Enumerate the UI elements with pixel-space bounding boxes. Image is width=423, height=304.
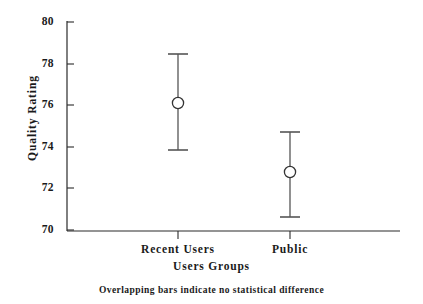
x-tick-label-public: Public	[272, 243, 308, 255]
x-tick-label-recent-users: Recent Users	[141, 243, 215, 255]
marker-public	[284, 166, 295, 177]
marker-recent-users	[172, 97, 183, 108]
data-point-recent-users	[168, 54, 188, 150]
plot-area	[0, 0, 423, 304]
chart-annotation: Overlapping bars indicate no statistical…	[0, 285, 423, 295]
data-point-public	[280, 132, 300, 217]
quality-rating-chart: Quality Rating 80 78 76 74 72 70	[0, 0, 423, 304]
x-axis-title: Users Groups	[0, 260, 423, 272]
